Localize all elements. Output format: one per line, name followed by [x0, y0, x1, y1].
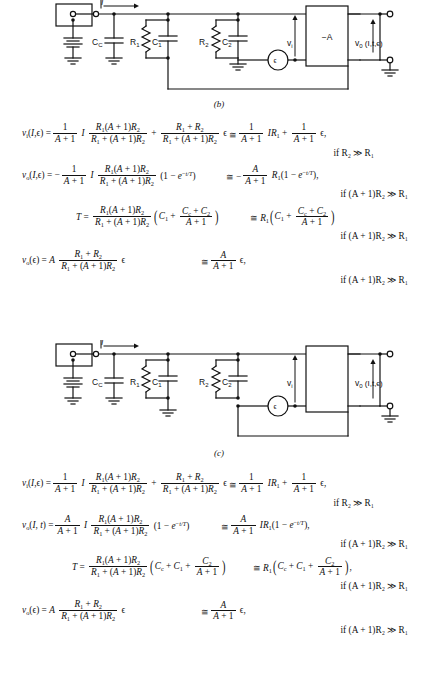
equation-b-2: vo(I,ϵ) = − 1A + 1 I R1(A + 1)R2 R1 + (A…	[0, 164, 438, 187]
eq-b4-lhs: vo(ϵ) = A	[22, 255, 57, 266]
eq-b1-eps: ϵ	[221, 128, 229, 138]
eq-c3-lhs: T =	[72, 562, 87, 572]
eq-c1-approx: ≅	[229, 479, 237, 490]
amplifier-box-c	[306, 346, 348, 412]
eq-c4-rhs-eps: ϵ,	[238, 605, 246, 615]
eq-c3-rhs-inner: C2 A + 1	[318, 556, 342, 578]
eq-b3-approx: ≅ R1	[250, 212, 269, 224]
eq-c4-lhs: vo(ϵ) = A	[22, 605, 57, 616]
eq-c2-I: I	[82, 520, 90, 530]
eq-c2-approx: ≅	[221, 521, 229, 532]
eq-b1-condition: if R₂ ≫ R₁	[0, 147, 438, 158]
equation-c-1: vi(I,ϵ) = 1A + 1 I R1(A + 1)R2 R1 + (A +…	[0, 472, 438, 495]
eq-c4-approx: ≅	[201, 606, 209, 617]
eq-c1-eps: ϵ	[221, 478, 229, 488]
eq-c3-rhs-lparen: (	[273, 557, 276, 577]
equation-b-1: vi(I,ϵ) = 1 A + 1 I R1(A + 1)R2 R1 + (A …	[0, 122, 438, 145]
eq-c3-comma: ,	[349, 562, 351, 572]
eq-c4-eps: ϵ	[119, 605, 125, 615]
eq-c3-inner: C2 A + 1	[195, 556, 219, 578]
eq-b2-approx: ≅ −	[226, 171, 242, 182]
r1-zigzag-c	[142, 366, 150, 392]
eq-c3-rhs-rparen: )	[345, 557, 348, 577]
eq-c1-term1: R1(A + 1)R2 R1 + (A + 1)R2	[89, 472, 147, 495]
circuit-svg-b: I CC R1 C1 R2 C2 vi ϵ −A v0 (I,t,ϵ)	[0, 0, 438, 95]
eq-b1-term2: R1 + R2 R1 + (A + 1)R2	[161, 122, 219, 145]
label-r2-b: R2	[199, 37, 209, 48]
equation-c-4: vo(ϵ) = A R1 + R2 R1 + (A + 1)R2 ϵ ≅ AA …	[0, 599, 438, 622]
eq-b1-approx: ≅	[229, 129, 237, 140]
output-terminal-top-c	[387, 351, 393, 357]
equations-block-c: vi(I,ϵ) = 1A + 1 I R1(A + 1)R2 R1 + (A +…	[0, 472, 438, 635]
equation-b-4: vo(ϵ) = A R1 + R2 R1 + (A + 1)R2 ϵ ≅ AA …	[0, 249, 438, 272]
eq-b3-condition: if (A + 1)R₂ ≫ R₁	[0, 230, 438, 241]
eq-c4-rhs: AA + 1	[211, 600, 235, 622]
output-terminal-top	[387, 11, 393, 17]
equation-c-3: T = R1(A + 1)R2 R1 + (A + 1)R2 ( Cc + C1…	[0, 555, 438, 578]
figure-caption-b: (b)	[0, 99, 438, 109]
label-r2-c: R2	[199, 377, 209, 388]
label-amp-b: −A	[322, 32, 333, 42]
eq-b1-IR: IR1 +	[265, 128, 289, 139]
circuit-figure-b: I CC R1 C1 R2 C2 vi ϵ −A v0 (I,t,ϵ) (b)	[0, 0, 438, 112]
eq-b4-rhs: AA + 1	[211, 250, 235, 272]
eq-c2-rhs-tail: IR1(1 − e−t/T),	[258, 519, 310, 531]
eq-c1-plus: +	[149, 478, 159, 488]
eq-c2-frac: R1(A + 1)R2 R1 + (A + 1)R2	[91, 514, 149, 537]
eq-c3-frac: R1(A + 1)R2 R1 + (A + 1)R2	[89, 555, 147, 578]
eq-c2-coef: AA + 1	[55, 514, 79, 536]
eq-b1-rhs2: 1A + 1	[292, 122, 316, 144]
label-epsilon-b: ϵ	[273, 57, 276, 64]
eq-b1-term1: R1(A + 1)R2 R1 + (A + 1)R2	[89, 122, 147, 145]
epsilon-source-circle	[268, 50, 288, 70]
label-vi-b: vi	[287, 38, 293, 49]
eq-c2-rhs: AA + 1	[231, 514, 255, 536]
circuit-figure-c: I CC R1 C1 R2 C2 vi ϵ v0 (I,t,ϵ) (c)	[0, 340, 438, 460]
label-cc-c: CC	[92, 377, 103, 388]
eq-b3-rhs-inner-lead: C1 +	[275, 211, 294, 222]
eq-c1-coef: 1A + 1	[53, 472, 77, 494]
eq-b2-condition: if (A + 1)R₂ ≫ R₁	[0, 188, 438, 199]
label-r1-c: R1	[130, 377, 140, 388]
detector-terminal-inner-c	[70, 351, 75, 356]
label-c1-b: C1	[152, 37, 162, 48]
eq-b2-frac: R1(A + 1)R2 R1 + (A + 1)R2	[98, 164, 156, 187]
eq-b1-rhs1: 1A + 1	[239, 122, 263, 144]
eq-c3-inner-lead: Cc + C1 +	[155, 561, 193, 572]
output-terminal-bottom	[387, 57, 393, 63]
output-terminal-bottom-c	[387, 403, 393, 409]
label-c1-c: C1	[152, 377, 162, 388]
page-root: I CC R1 C1 R2 C2 vi ϵ −A v0 (I,t,ϵ) (b) …	[0, 0, 438, 679]
eq-b3-frac: R1(A + 1)R2 R1 + (A + 1)R2	[93, 205, 151, 228]
eq-c1-rhs-eps: ϵ,	[318, 478, 326, 488]
eq-b4-rhs-eps: ϵ,	[238, 255, 246, 265]
label-c2-c: C2	[222, 377, 232, 388]
eq-c3-rparen: )	[222, 557, 225, 577]
eq-c3-approx: ≅ R1	[253, 562, 272, 574]
eq-c4-condition: if (A + 1)R₂ ≫ R₁	[0, 624, 438, 635]
eq-b1-plus: +	[149, 128, 159, 138]
eq-c1-rhs2: 1A + 1	[292, 472, 316, 494]
eq-b3-rhs-lparen: (	[270, 207, 273, 227]
eq-b2-rhs-tail: R1(1 − e−t/T),	[269, 169, 318, 181]
label-vo-b: v0 (I,t,ϵ)	[355, 38, 383, 49]
eq-b4-eps: ϵ	[119, 255, 125, 265]
eq-c2-tail: (1 − e−t/T)	[151, 520, 189, 531]
eq-c1-rhs1: 1A + 1	[239, 472, 263, 494]
r2-zigzag-c	[212, 366, 220, 392]
eq-c2-lhs: vo(I, t) =	[22, 520, 53, 531]
label-vo-c: v0 (I,t,ϵ)	[355, 378, 383, 389]
r1-zigzag	[142, 26, 150, 52]
detector-terminal-inner	[70, 11, 75, 16]
r2-zigzag	[212, 26, 220, 52]
eq-c1-condition: if R₂ ≫ R₁	[0, 497, 438, 508]
equation-c-2: vo(I, t) = AA + 1 I R1(A + 1)R2 R1 + (A …	[0, 514, 438, 537]
eq-b4-frac: R1 + R2 R1 + (A + 1)R2	[59, 249, 117, 272]
eq-b1-lhs: vi(I,ϵ) =	[22, 128, 51, 139]
eq-b2-coef: 1A + 1	[62, 164, 86, 186]
eq-b2-tail: (1 − e−t/T)	[158, 170, 196, 181]
label-c2-b: C2	[222, 37, 232, 48]
eq-c1-lhs: vi(I,ϵ) =	[22, 478, 51, 489]
detector-terminal-outer-c	[93, 351, 98, 356]
equation-b-3: T = R1(A + 1)R2 R1 + (A + 1)R2 ( C1 + Cc…	[0, 205, 438, 228]
